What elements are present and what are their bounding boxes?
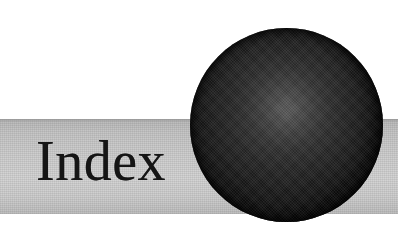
page-title: Index	[36, 132, 166, 190]
index-divider-page: Index	[0, 0, 398, 237]
sphere-ornament-icon	[190, 28, 383, 222]
sphere-rim-shading	[190, 28, 383, 222]
